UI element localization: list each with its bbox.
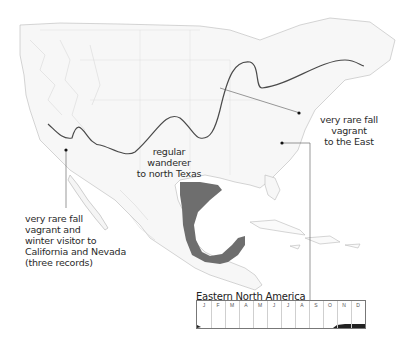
annotation-west-line: California and Nevada [25,246,126,257]
annotation-east-line: to the East [316,136,382,147]
month-label: J [267,302,281,308]
month-label: F [211,302,225,308]
month-label: S [309,302,323,308]
annotation-west-line: vagrant and [25,224,126,235]
annotation-west-line: very rare fall [25,213,126,224]
month-label: J [281,302,295,308]
month-label: M [253,302,267,308]
month-label: J [197,302,211,308]
month-label: A [239,302,253,308]
annotation-east: very rare fall vagrant to the East [316,114,382,147]
annotation-east-line: vagrant [316,125,382,136]
annotation-west: very rare fall vagrant and winter visito… [25,213,126,268]
month-label: A [295,302,309,308]
record-dot-california [64,148,67,151]
annotation-texas-line: regular wanderer [132,146,206,168]
month-label: O [323,302,337,308]
month-label: M [225,302,239,308]
seasonal-abundance-chart: JFMAMJJASOND [196,300,366,329]
record-dot-maryland [297,111,300,114]
annotation-texas: regular wanderer to north Texas [132,146,206,179]
annotation-east-line: very rare fall [316,114,382,125]
annotation-west-line: winter visitor to [25,235,126,246]
record-dot-carolina [280,141,283,144]
month-label: N [337,302,351,308]
annotation-west-line: (three records) [25,257,126,268]
month-label: D [351,302,365,308]
annotation-texas-line: to north Texas [132,168,206,179]
